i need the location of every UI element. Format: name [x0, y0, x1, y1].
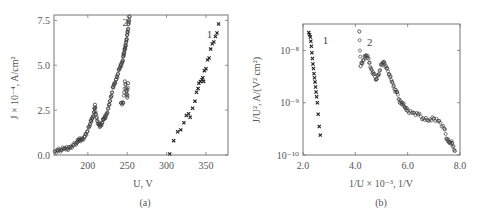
data-point [358, 39, 361, 42]
y-tick-label: 5.0 [38, 60, 51, 71]
data-point [316, 101, 319, 104]
x-tick-label: 6.0 [401, 160, 414, 171]
data-point [172, 139, 175, 142]
data-point [314, 85, 317, 88]
panel-a-chart: 2002503003500.02.55.07.5 U, V J × 10⁻⁴, … [9, 15, 228, 209]
data-point [195, 91, 198, 94]
panel-b-series-labels: 12 [323, 34, 373, 48]
panel-b-chart: 2.04.06.08.010⁻¹⁰10⁻⁹10⁻⁸ 1/U × 10⁻³, 1/… [251, 24, 466, 209]
data-point [208, 56, 211, 59]
x-tick-label: 350 [198, 160, 213, 171]
figure: 2002503003500.02.55.07.5 U, V J × 10⁻⁴, … [0, 0, 481, 219]
data-point [358, 30, 361, 33]
data-point [196, 87, 199, 90]
data-point [379, 69, 382, 72]
y-tick-label: 0.0 [38, 150, 51, 161]
x-tick-label: 250 [120, 160, 135, 171]
data-point [314, 90, 317, 93]
panel-a-series-labels: 21 [122, 16, 212, 41]
data-point [444, 132, 447, 135]
panel-a-x-axis-label: U, V [133, 178, 153, 189]
x-tick-label: 2.0 [297, 160, 310, 171]
panel-b-x-axis-label: 1/U × 10⁻³, 1/V [349, 178, 414, 189]
series-label: 2 [122, 16, 128, 28]
data-point [122, 94, 125, 97]
data-point [209, 48, 212, 51]
data-point [191, 107, 194, 110]
data-point [311, 57, 314, 60]
panel-b-data-points [307, 30, 456, 153]
y-tick-label: 10⁻⁸ [280, 45, 299, 56]
data-point [312, 67, 315, 70]
x-tick-label: 8.0 [454, 160, 467, 171]
data-point [193, 100, 196, 103]
data-point [217, 22, 220, 25]
x-tick-label: 300 [159, 160, 174, 171]
data-point [319, 134, 322, 137]
data-point [310, 45, 313, 48]
panel-a-y-axis-label: J × 10⁻⁴, A/cm² [9, 57, 20, 120]
x-tick-label: 200 [80, 160, 95, 171]
data-point [309, 40, 312, 43]
y-tick-label: 10⁻⁹ [280, 97, 299, 108]
x-tick-label: 4.0 [349, 160, 362, 171]
data-point [312, 72, 315, 75]
y-tick-label: 7.5 [38, 15, 51, 26]
panel-a-caption: (a) [139, 197, 150, 209]
panel-a-data-points [53, 15, 220, 156]
data-point [311, 62, 314, 65]
data-point [310, 51, 313, 54]
panel-a-plot-frame [54, 15, 228, 155]
data-point [176, 130, 179, 133]
data-point [215, 31, 218, 34]
data-point [179, 128, 182, 131]
series-label: 2 [367, 36, 373, 48]
y-tick-label: 10⁻¹⁰ [277, 150, 299, 161]
data-point [182, 121, 185, 124]
y-tick-label: 2.5 [38, 105, 51, 116]
data-point [317, 113, 320, 116]
data-point [358, 49, 361, 52]
series-label: 1 [323, 34, 329, 46]
data-point [392, 84, 395, 87]
data-point [204, 67, 207, 70]
data-point [214, 35, 217, 38]
data-point [315, 95, 318, 98]
data-point [318, 125, 321, 128]
data-point [313, 76, 316, 79]
data-point [202, 80, 205, 83]
data-point [359, 55, 362, 58]
data-point [313, 80, 316, 83]
data-point [189, 116, 192, 119]
data-point [212, 40, 215, 43]
data-point [452, 145, 455, 148]
panel-b-caption: (b) [375, 197, 387, 209]
series-label: 1 [207, 28, 213, 40]
panel-b-y-axis-label: J/U², A/(V² cm²) [251, 57, 263, 123]
